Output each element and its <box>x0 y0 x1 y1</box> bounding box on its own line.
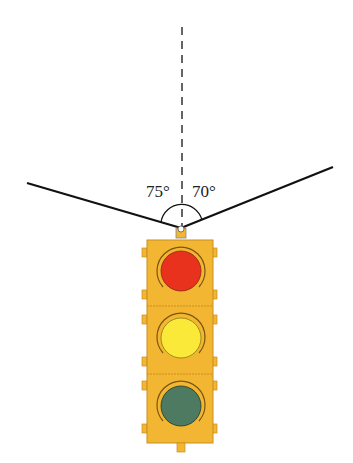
right-angle-label: 70° <box>192 182 216 201</box>
red-light <box>161 251 201 291</box>
left-angle-label: 75° <box>146 182 170 201</box>
force-diagram: 75° 70° <box>0 0 353 463</box>
traffic-light <box>142 240 217 452</box>
yellow-light <box>161 318 201 358</box>
green-light <box>161 386 201 426</box>
bottom-stub <box>177 443 185 452</box>
hanger-ring <box>178 226 184 232</box>
